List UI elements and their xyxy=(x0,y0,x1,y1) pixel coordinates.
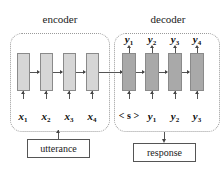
response-box: response xyxy=(133,143,196,162)
arrow-head-icon xyxy=(165,70,168,74)
decoder-cell-3 xyxy=(168,53,182,91)
decoder-input-y3: y3 xyxy=(187,110,207,126)
encoder-cell-3 xyxy=(63,53,76,91)
decoder-output-y2: y2 xyxy=(142,33,162,49)
arrow-head-icon xyxy=(37,70,40,74)
arrow-head-icon xyxy=(83,70,86,74)
arrow-head-icon xyxy=(44,91,48,94)
context-connector xyxy=(99,72,122,73)
arrow-head-icon xyxy=(195,91,199,94)
arrow-head-icon xyxy=(187,70,190,74)
decoder-cell-4 xyxy=(190,53,204,91)
arrow-head-icon xyxy=(21,91,25,94)
decoder-output-y4: y4 xyxy=(187,33,207,49)
decoder-cell-2 xyxy=(145,53,159,91)
arrow-head-icon xyxy=(150,91,154,94)
encoder-input-x2: x2 xyxy=(36,110,56,126)
decoder-input-y2: y2 xyxy=(165,110,185,126)
decoder-output-y1: y1 xyxy=(119,33,139,49)
arrow-head-icon xyxy=(60,70,63,74)
arrow-head-icon xyxy=(127,91,131,94)
encoder-title: encoder xyxy=(30,13,90,25)
decoder-input-y1: y1 xyxy=(142,110,162,126)
decoder-title: decoder xyxy=(138,13,198,25)
encoder-input-x1: x1 xyxy=(13,110,33,126)
encoder-cell-2 xyxy=(40,53,53,91)
encoder-input-x3: x3 xyxy=(59,110,79,126)
encoder-cell-4 xyxy=(86,53,99,91)
arrow-head-icon xyxy=(173,91,177,94)
decoder-input-start-token: < s > xyxy=(116,110,142,122)
arrow-head-icon xyxy=(67,91,71,94)
arrow-head-icon xyxy=(90,91,94,94)
decoder-cell-1 xyxy=(122,53,136,91)
utterance-box: utterance xyxy=(27,139,90,158)
encoder-cell-1 xyxy=(17,53,30,91)
decoder-output-y3: y3 xyxy=(165,33,185,49)
arrow-head-icon xyxy=(56,130,60,133)
encoder-input-x4: x4 xyxy=(82,110,102,126)
arrow-head-icon xyxy=(142,70,145,74)
